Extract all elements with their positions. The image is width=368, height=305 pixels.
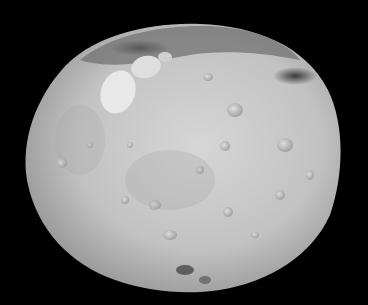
photo-scene xyxy=(0,0,368,305)
asteroid-image xyxy=(0,0,368,305)
